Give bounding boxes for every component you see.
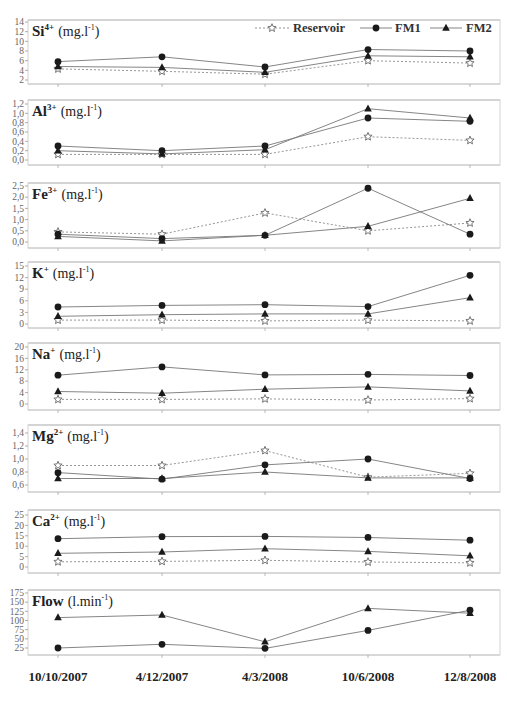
x-axis-label: 12/8/2008 [444,669,497,684]
x-axis-label: 10/6/2008 [342,669,395,684]
panel-fe: 0,00,51,01,52,02,5Fe3+(mg.l-1) [12,181,500,251]
y-tick-label: 12 [15,365,25,375]
fm2-marker-icon [364,383,372,390]
fm1-marker-icon [365,115,372,122]
reservoir-marker-icon [466,394,474,402]
fm1-marker-icon [365,303,372,310]
y-tick-label: 0,5 [12,226,24,236]
fm1-marker-icon [262,372,269,379]
y-tick-label: 1,5 [12,204,24,214]
fm1-marker-icon [467,272,474,279]
fm2-marker-icon [54,549,62,556]
y-tick-label: 0,2 [12,146,24,156]
reservoir-marker-icon [261,556,269,564]
fm2-marker-icon [158,63,166,70]
series-line-reservoir [58,213,470,234]
fm1-marker-icon [365,456,372,463]
y-tick-label: 9 [19,284,24,294]
fm1-marker-icon [467,118,474,125]
fm1-marker-icon [55,231,62,238]
y-tick-label: 0,6 [12,480,24,490]
fm1-marker-icon [159,147,166,154]
panel-al: 0,00,20,40,60,81,01,2Al3+(mg.l-1) [12,99,500,168]
y-tick-label: 2,0 [12,192,24,202]
panel-title: Flow(l.min-1) [32,593,113,610]
fm1-marker-icon [365,46,372,53]
y-tick-label: 6 [19,296,24,306]
fm1-marker-icon [365,534,372,541]
fm1-marker-icon [262,143,269,150]
reservoir-marker-icon [466,59,474,67]
reservoir-marker-icon [261,317,269,325]
y-tick-label: 16 [15,354,25,364]
reservoir-marker-icon [54,395,62,403]
fm1-marker-icon [467,372,474,379]
y-tick-label: 1,0 [12,454,24,464]
y-tick-label: 12 [15,27,25,37]
fm2-marker-icon [442,24,450,31]
y-tick-label: 2 [19,75,24,85]
fm1-marker-icon [467,48,474,55]
fm2-marker-icon [54,613,62,620]
panel-na: 048121620Na+(mg.l-1) [15,342,501,413]
y-tick-label: 125 [10,607,25,617]
multi-panel-line-chart: 2468101214Si4+(mg.l-1)0,00,20,40,60,81,0… [0,0,507,703]
fm1-marker-icon [262,232,269,239]
fm2-marker-icon [54,387,62,394]
panel-k: 03691215K+(mg.l-1) [15,261,501,331]
y-tick-label: 10 [15,541,25,551]
panel-si: 2468101214Si4+(mg.l-1) [15,17,501,87]
y-tick-label: 1,0 [12,215,24,225]
fm2-marker-icon [466,552,474,559]
fm1-marker-icon [159,364,166,371]
fm1-marker-icon [467,607,474,614]
y-tick-label: 0,8 [12,118,24,128]
fm2-marker-icon [54,312,62,319]
fm1-marker-icon [365,371,372,378]
fm1-marker-icon [262,645,269,652]
y-tick-label: 25 [15,643,25,653]
y-tick-label: 0,0 [12,237,24,247]
x-axis-label: 10/10/2007 [28,669,88,684]
fm1-marker-icon [262,301,269,308]
y-tick-label: 5 [19,552,24,562]
fm2-marker-icon [261,385,269,392]
y-tick-label: 0,0 [12,155,24,165]
fm1-marker-icon [159,235,166,242]
y-tick-label: 20 [15,342,25,352]
fm1-marker-icon [262,461,269,468]
y-tick-label: 6 [19,56,24,66]
fm1-marker-icon [365,185,372,192]
fm1-marker-icon [55,58,62,65]
fm2-marker-icon [158,611,166,618]
reservoir-marker-icon [54,461,62,469]
panel-flow: 255075100125150175Flow(l.min-1) [10,588,500,658]
fm1-marker-icon [55,469,62,476]
y-tick-label: 8 [19,46,24,56]
y-tick-label: 1,2 [12,99,24,109]
panel-title: K+(mg.l-1) [32,264,94,282]
fm1-marker-icon [373,25,380,32]
y-tick-label: 0,6 [12,127,24,137]
y-tick-label: 50 [15,634,25,644]
fm2-marker-icon [158,389,166,396]
y-tick-label: 175 [10,588,25,598]
fm1-marker-icon [262,533,269,540]
fm1-marker-icon [55,535,62,542]
y-tick-label: 0,8 [12,467,24,477]
fm1-marker-icon [365,627,372,634]
reservoir-marker-icon [364,396,372,404]
fm2-marker-icon [261,544,269,551]
y-tick-label: 8 [19,376,24,386]
y-tick-label: 3 [19,308,24,318]
panel-title: Fe3+(mg.l-1) [32,185,103,203]
y-tick-label: 20 [15,521,25,531]
fm2-marker-icon [364,104,372,111]
y-tick-label: 0 [19,562,24,572]
fm1-marker-icon [55,645,62,652]
fm1-marker-icon [55,304,62,311]
y-tick-label: 10 [15,37,25,47]
panel-title: Al3+(mg.l-1) [32,102,102,120]
legend-fm2-label: FM2 [466,21,492,35]
fm1-marker-icon [159,533,166,540]
